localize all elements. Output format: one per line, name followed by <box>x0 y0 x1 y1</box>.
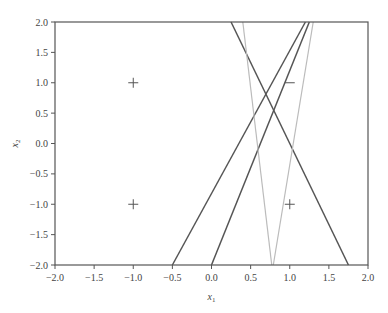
x-tick-label: −1.5 <box>85 272 103 283</box>
x-tick-label: 1.0 <box>284 272 297 283</box>
chart-figure: −2.0−1.5−1.0−0.50.00.51.01.52.0 2.01.51.… <box>0 0 388 313</box>
y-tick-label: 0.5 <box>36 108 49 119</box>
decision-lines <box>172 22 348 265</box>
plus-marker <box>128 199 138 209</box>
line-dark-2 <box>212 22 310 265</box>
y-tick-label: −0.5 <box>30 168 48 179</box>
y-tick-label: 1.0 <box>36 77 49 88</box>
plus-marker <box>128 78 138 88</box>
x-tick-label: 0.0 <box>205 272 218 283</box>
plus-marker <box>285 199 295 209</box>
line-dark-3 <box>231 22 348 265</box>
x-tick-label: 1.5 <box>323 272 336 283</box>
y-tick-label: 1.5 <box>36 47 49 58</box>
x-axis-ticks: −2.0−1.5−1.0−0.50.00.51.01.52.0 <box>46 265 374 283</box>
y-axis-ticks: 2.01.51.00.50.0−0.5−1.0−1.5−2.0 <box>30 17 55 271</box>
line-light-2 <box>273 22 313 265</box>
line-dark-1 <box>172 22 305 265</box>
plot-frame <box>55 22 368 265</box>
x-tick-label: −0.5 <box>163 272 181 283</box>
y-tick-label: 0.0 <box>36 138 49 149</box>
x-tick-label: −1.0 <box>124 272 142 283</box>
y-tick-label: −2.0 <box>30 260 48 271</box>
y-tick-label: −1.0 <box>30 199 48 210</box>
x-axis-label: x1 <box>207 291 216 304</box>
x-tick-label: 2.0 <box>362 272 375 283</box>
y-tick-label: −1.5 <box>30 229 48 240</box>
data-point-markers <box>128 78 295 210</box>
y-tick-label: 2.0 <box>36 17 49 28</box>
y-axis-label: x2 <box>9 139 22 148</box>
line-light-1 <box>243 22 272 265</box>
x-tick-label: 0.5 <box>244 272 257 283</box>
x-tick-label: −2.0 <box>46 272 64 283</box>
